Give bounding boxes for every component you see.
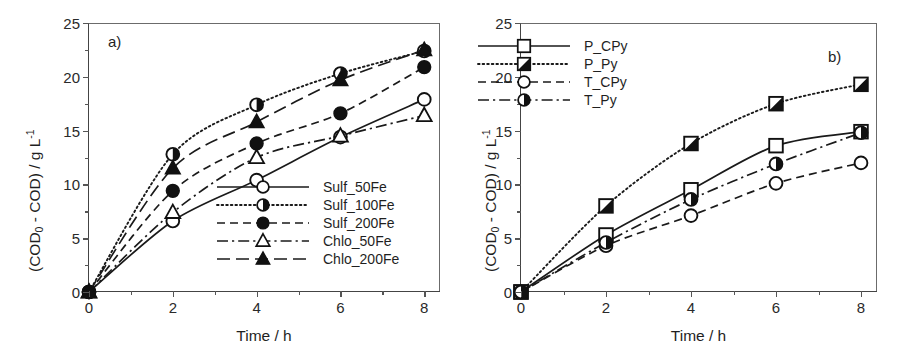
y-axis-title-a: (COD0 - COD) / g L-1 [26,129,44,272]
x-tick [89,291,90,297]
data-point-Sulf_100Fe [166,148,179,161]
legend-item-P_Py: P_Py [476,55,628,73]
x-tick [257,291,258,297]
y-title-pre: (COD [482,232,499,272]
x-tick-label: 6 [772,300,780,315]
data-point-Sulf_200Fe [418,61,431,74]
y-tick [515,238,521,239]
legend-sample-P_Py [476,55,572,73]
legend-label: P_CPy [584,37,628,55]
x-tick-minor [131,291,132,295]
y-tick [83,238,89,239]
x-tick-label: 4 [687,300,695,315]
x-tick [340,291,341,297]
legend-label: Sulf_200Fe [323,214,395,232]
data-point-Sulf_200Fe [166,184,179,197]
y-title-sup: -1 [24,129,36,138]
data-point-P_CPy [769,139,783,153]
x-tick [861,291,862,297]
x-tick-label: 6 [336,300,344,315]
y-title-sup: -1 [480,129,492,138]
panel-label-b: b) [828,48,841,65]
x-tick-minor [299,291,300,295]
legend-sample-P_CPy [476,37,572,55]
data-point-P_Py [599,199,613,213]
marker-half-circle [257,199,269,211]
legend-label: Chlo_50Fe [323,232,392,250]
y-tick-label: 0 [72,285,80,300]
y-tick-minor [85,50,89,51]
data-point-T_CPy [855,156,868,169]
y-tick-label: 25 [495,16,512,31]
marker-open-circle [257,181,269,193]
y-tick-label: 25 [63,16,80,31]
data-point-T_CPy [685,209,698,222]
y-tick [515,184,521,185]
y-tick [83,184,89,185]
data-point-T_Py [855,126,868,139]
legend-item-P_CPy: P_CPy [476,37,628,55]
y-tick-minor [517,158,521,159]
legend-sample-T_CPy [476,73,572,91]
x-tick-label: 4 [252,300,260,315]
y-tick-label: 15 [63,123,80,138]
x-tick [776,291,777,297]
x-tick-label: 8 [857,300,865,315]
y-tick-label: 20 [63,69,80,84]
y-title-pre: (COD [26,232,43,272]
y-axis-title-b: (COD0 - COD) / g L-1 [482,129,500,272]
y-tick-minor [517,265,521,266]
y-tick-minor [85,211,89,212]
legend-sample-Chlo_50Fe [215,232,311,250]
data-point-T_Py [685,193,698,206]
legend-label: Chlo_200Fe [323,250,399,268]
x-tick [521,291,522,297]
legend-item-T_Py: T_Py [476,91,628,109]
x-tick-minor [819,291,820,295]
marker-half-circle [518,94,530,106]
y-title-sub: 0 [489,227,501,233]
marker-filled-triangle [256,252,270,264]
y-tick-label: 5 [504,231,512,246]
data-point-P_Py [854,78,868,92]
y-tick-label: 10 [63,177,80,192]
x-tick-label: 0 [85,300,93,315]
x-tick [606,291,607,297]
legend-item-Sulf_200Fe: Sulf_200Fe [215,214,399,232]
panel-b: 051015202502468 b) Time / h (COD0 - COD)… [456,0,912,358]
legend-sample-Sulf_50Fe [215,178,311,196]
y-title-mid: - COD) / g L [482,139,499,227]
legend-label: Sulf_50Fe [323,178,387,196]
x-tick-minor [734,291,735,295]
legend-item-Chlo_50Fe: Chlo_50Fe [215,232,399,250]
data-point-T_CPy [770,177,783,190]
data-point-Chlo_50Fe [249,150,264,163]
x-axis-title-b: Time / h [671,327,726,345]
figure: 051015202502468 a) Time / h (COD0 - COD)… [0,0,912,358]
x-tick-minor [649,291,650,295]
data-point-P_Py [684,137,698,151]
y-title-sub: 0 [33,227,45,233]
x-tick-minor [382,291,383,295]
legend-label: P_Py [584,55,617,73]
y-tick [515,23,521,24]
legend-label: T_CPy [584,73,627,91]
marker-open-circle [518,76,530,88]
data-point-Sulf_50Fe [418,93,431,106]
y-tick-label: 0 [504,285,512,300]
x-tick-label: 2 [602,300,610,315]
x-tick-label: 0 [517,300,525,315]
legend-sample-Sulf_100Fe [215,196,311,214]
data-point-T_Py [770,158,783,171]
legend-sample-Sulf_200Fe [215,214,311,232]
marker-filled-circle [257,217,269,229]
data-point-Chlo_200Fe [249,114,264,127]
y-tick [83,23,89,24]
legend-item-Sulf_50Fe: Sulf_50Fe [215,178,399,196]
x-axis-title-a: Time / h [236,327,291,345]
y-title-mid: - COD) / g L [26,139,43,227]
marker-half-square [518,58,530,70]
x-tick [173,291,174,297]
legend-a: Sulf_50FeSulf_100FeSulf_200FeChlo_50FeCh… [215,178,399,268]
y-tick [515,131,521,132]
